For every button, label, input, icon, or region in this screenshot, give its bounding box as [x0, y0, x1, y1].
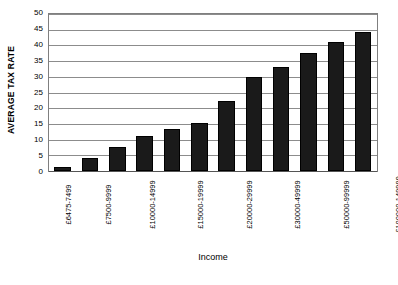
bar	[246, 77, 262, 171]
x-axis-tick-label: £20000-29999	[245, 180, 254, 228]
y-axis-tick: 35	[34, 57, 43, 65]
x-axis-tick: £50000-99999	[322, 173, 370, 245]
bar-slot	[350, 14, 377, 171]
bar-slot	[213, 14, 240, 171]
x-axis-tick: £10000-14999	[128, 173, 176, 245]
bar-slot	[322, 14, 349, 171]
y-axis-tick: 40	[34, 41, 43, 49]
y-axis-tick: 15	[34, 120, 43, 128]
bar-slot	[131, 14, 158, 171]
x-axis-tick: £20000-29999	[225, 173, 273, 245]
bar-slot	[104, 14, 131, 171]
x-axis-tick: £100000-149999	[370, 173, 398, 245]
bar-slot	[268, 14, 295, 171]
x-axis-tick-label: £6475-7499	[64, 184, 73, 224]
x-axis-tick-label: £15000-19999	[196, 180, 205, 228]
x-axis-tick-label: £30000-49999	[293, 180, 302, 228]
x-axis-title: Income	[48, 252, 378, 262]
bar-slot	[158, 14, 185, 171]
plot-area	[48, 13, 378, 172]
x-axis-tick: £6475-7499	[48, 173, 88, 245]
bar	[218, 101, 234, 171]
bar	[273, 67, 289, 171]
y-axis-tick: 45	[34, 25, 43, 33]
bar-slot	[295, 14, 322, 171]
y-axis-tick: 0	[39, 168, 43, 176]
y-axis-tick: 20	[34, 104, 43, 112]
y-axis-title: AVERAGE TAX RATE	[0, 0, 22, 180]
gridline	[49, 171, 377, 172]
y-axis-tick: 10	[34, 136, 43, 144]
bar	[328, 42, 344, 171]
y-axis-tick: 50	[34, 9, 43, 17]
bar-slot	[186, 14, 213, 171]
y-axis-tick: 5	[39, 152, 43, 160]
x-axis-tick-label: £100000-149999	[394, 176, 398, 233]
bar-slot	[49, 14, 76, 171]
x-axis-tick: £30000-49999	[273, 173, 321, 245]
y-axis-title-label: AVERAGE TAX RATE	[6, 46, 16, 134]
bar	[109, 147, 125, 171]
y-axis-tick-labels: 50454035302520151050	[22, 13, 46, 172]
y-axis-tick: 25	[34, 89, 43, 97]
x-axis-tick: £15000-19999	[176, 173, 224, 245]
x-axis-tick-label: £7500-9999	[104, 184, 113, 224]
bar-series	[49, 14, 377, 171]
bar-chart: AVERAGE TAX RATE 50454035302520151050 £6…	[0, 0, 398, 285]
x-axis-tick-labels: £6475-7499£7500-9999£10000-14999£15000-1…	[48, 173, 378, 245]
bar	[300, 53, 316, 171]
x-axis-tick-label: £10000-14999	[148, 180, 157, 228]
x-axis-tick: £7500-9999	[88, 173, 128, 245]
bar	[191, 123, 207, 171]
bar-slot	[240, 14, 267, 171]
bar	[164, 129, 180, 171]
bar-slot	[76, 14, 103, 171]
bar	[136, 136, 152, 171]
y-axis-tick: 30	[34, 73, 43, 81]
bar	[82, 158, 98, 171]
bar	[54, 167, 70, 171]
bar	[355, 32, 371, 171]
x-axis-tick-label: £50000-99999	[341, 180, 350, 228]
